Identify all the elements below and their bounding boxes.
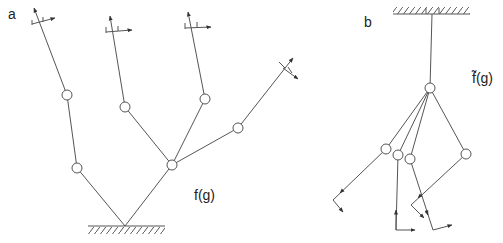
panel-b-diagram <box>333 7 471 230</box>
panel-a-label: a <box>8 6 16 22</box>
links-a <box>34 8 293 226</box>
frame-tip-2 <box>106 26 132 33</box>
panel-b-function-label: f̃(g) <box>472 70 493 86</box>
panel-b-label: b <box>364 14 372 30</box>
ground-a <box>88 226 165 234</box>
frame-tip-3 <box>185 22 211 29</box>
frame-tip-1 <box>32 17 55 25</box>
diagram-canvas <box>0 0 503 243</box>
panel-a-function-label: f(g) <box>194 187 215 203</box>
joints-a <box>62 90 243 173</box>
ceiling-b <box>393 7 470 14</box>
frame-tip-4 <box>279 62 298 79</box>
links-b <box>333 14 466 230</box>
panel-a-diagram <box>32 8 298 234</box>
joints-b <box>381 83 471 164</box>
